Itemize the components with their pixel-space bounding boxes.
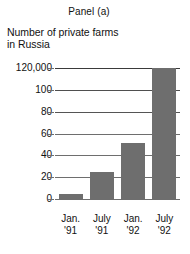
chart-figure: Panel (a) Number of private farms in Rus… <box>0 0 190 254</box>
y-tick-label-100: 100 <box>0 85 52 95</box>
y-tick-mark-60 <box>48 134 54 135</box>
y-tick-mark-80 <box>48 112 54 113</box>
y-tick-label-60: 60 <box>0 129 52 139</box>
x-axis-line <box>55 199 180 200</box>
bar-july-92 <box>152 68 176 199</box>
y-tick-label-40: 40 <box>0 150 52 160</box>
y-tick-label-20: 20 <box>0 172 52 182</box>
y-tick-label-0: 0 <box>0 194 52 204</box>
y-tick-label-80: 80 <box>0 107 52 117</box>
chart-subtitle-line-1: Number of private farms <box>7 26 187 38</box>
y-tick-mark-120 <box>48 68 54 69</box>
y-tick-mark-100 <box>48 90 54 91</box>
x-tick-label-3-line-1: '92 <box>142 225 186 237</box>
panel-title: Panel (a) <box>0 6 178 18</box>
y-tick-label-120: 120,000 <box>0 63 52 73</box>
bar-jan-92 <box>121 143 145 199</box>
y-tick-mark-40 <box>48 155 54 156</box>
y-tick-mark-0 <box>48 199 54 200</box>
chart-subtitle: Number of private farms in Russia <box>7 26 187 51</box>
plot-area <box>55 68 180 199</box>
chart-subtitle-line-2: in Russia <box>7 38 187 50</box>
x-tick-label-3-line-0: July <box>142 213 186 225</box>
bar-july-91 <box>90 172 114 199</box>
x-tick-label-3: July'92 <box>142 213 186 236</box>
y-tick-mark-20 <box>48 177 54 178</box>
